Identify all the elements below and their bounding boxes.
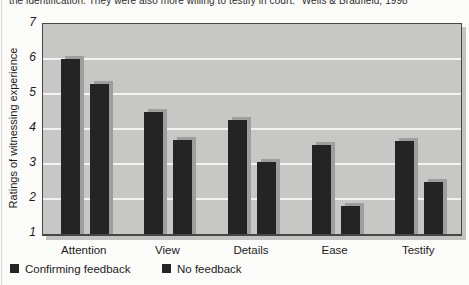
y-tick-label: 2: [12, 190, 36, 204]
y-tick-label: 1: [12, 225, 36, 239]
bar: [257, 162, 276, 234]
y-tick-label: 5: [12, 85, 36, 99]
gridline: [43, 58, 461, 60]
x-axis-label: View: [122, 244, 212, 256]
textbook-figure: the identification. They were also more …: [0, 0, 469, 285]
y-tick-label: 7: [12, 15, 36, 29]
bar: [144, 112, 163, 235]
bar: [341, 206, 360, 234]
legend-label: No feedback: [177, 263, 242, 275]
bar: [424, 182, 443, 235]
bar: [173, 140, 192, 235]
legend-label: Confirming feedback: [25, 263, 130, 275]
bar: [395, 141, 414, 234]
bar: [61, 59, 80, 234]
page-edge-rule: [1, 0, 2, 285]
y-tick-label: 3: [12, 155, 36, 169]
legend-item: Confirming feedback: [10, 262, 130, 275]
x-axis-label: Ease: [290, 244, 380, 256]
legend-swatch: [162, 264, 171, 273]
x-axis-label: Testify: [373, 244, 463, 256]
bar: [312, 145, 331, 234]
x-axis-label: Details: [206, 244, 296, 256]
figure-caption: the identification. They were also more …: [9, 0, 467, 6]
legend-item: No feedback: [162, 262, 242, 275]
y-tick-label: 4: [12, 120, 36, 134]
x-axis-label: Attention: [39, 244, 129, 256]
legend-swatch: [10, 264, 19, 273]
bar: [228, 120, 247, 234]
plot-area: [42, 23, 462, 236]
y-tick-label: 6: [12, 50, 36, 64]
bar: [90, 84, 109, 235]
